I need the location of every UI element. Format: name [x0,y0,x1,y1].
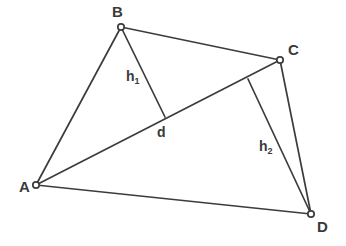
vertex-marker-d [308,211,314,217]
geometry-diagram: A B C D d h1 h2 [0,0,346,246]
vertex-label-d: D [317,219,328,234]
altitude-label-h2-subscript: 2 [268,146,273,156]
edge-bc [121,27,280,60]
altitude-label-h1: h1 [126,69,140,83]
diagonal-ac [36,60,280,185]
edge-da [36,185,311,214]
vertex-label-a: A [19,179,30,194]
altitude-label-h2-base: h [259,138,268,154]
diagonal-label-d: d [157,125,166,139]
vertex-marker-b [118,24,124,30]
vertex-marker-a [33,182,39,188]
edge-ab [36,27,121,185]
altitude-label-h1-subscript: 1 [135,76,140,86]
vertex-marker-c [277,57,283,63]
altitude-label-h1-base: h [126,68,135,84]
vertex-label-b: B [112,4,123,19]
edge-cd [280,60,311,214]
geometry-canvas [0,0,346,246]
vertex-label-c: C [288,42,299,57]
altitude-h2-from-d [248,79,311,214]
altitude-label-h2: h2 [259,139,273,153]
